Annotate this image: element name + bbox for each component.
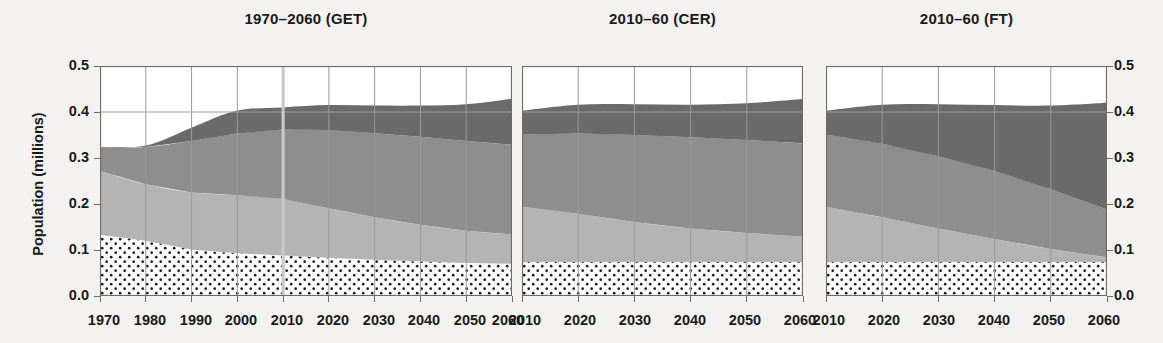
- y-axis-label: Population (millions): [30, 69, 46, 299]
- y-axis-ticks-left: 0.00.10.20.30.40.5: [55, 0, 95, 343]
- y-tick-mark: [94, 66, 100, 67]
- x-tick-label: 1990: [180, 312, 212, 328]
- panel-title-1: 1970–2060 (GET): [100, 10, 512, 27]
- y-tick-label: 0.3: [1114, 149, 1134, 165]
- y-tick-label: 0.4: [69, 103, 89, 119]
- panel-title-3: 2010–60 (FT): [826, 10, 1107, 27]
- x-tick-label: 1970: [88, 312, 120, 328]
- x-tick-label: 2010: [271, 312, 303, 328]
- x-tick-label: 1980: [134, 312, 166, 328]
- x-tick-mark: [100, 296, 101, 302]
- y-tick-label: 0.3: [69, 149, 89, 165]
- x-tick-label: 2040: [978, 312, 1010, 328]
- x-tick-mark: [191, 296, 192, 302]
- x-tick-label: 2060: [1088, 312, 1120, 328]
- y-tick-mark: [1107, 250, 1113, 251]
- y-tick-mark: [94, 112, 100, 113]
- chart-panel-2[interactable]: [522, 66, 803, 296]
- y-tick-label: 0.4: [1114, 103, 1134, 119]
- x-tick-label: 2040: [408, 312, 440, 328]
- x-tick-mark: [938, 296, 939, 302]
- x-tick-mark: [634, 296, 635, 302]
- y-tick-label: 0.5: [69, 57, 89, 73]
- y-tick-label: 0.0: [1114, 287, 1134, 303]
- y-tick-mark: [1107, 112, 1113, 113]
- x-tick-mark: [882, 296, 883, 302]
- x-tick-label: 2030: [923, 312, 955, 328]
- y-tick-mark: [94, 204, 100, 205]
- x-tick-mark: [746, 296, 747, 302]
- x-tick-mark: [803, 296, 804, 302]
- x-tick-mark: [690, 296, 691, 302]
- y-tick-label: 0.5: [1114, 57, 1134, 73]
- x-tick-label: 2020: [317, 312, 349, 328]
- x-tick-mark: [578, 296, 579, 302]
- y-axis-ticks-right: 0.00.10.20.30.40.5: [1108, 0, 1152, 343]
- y-tick-mark: [1107, 296, 1113, 297]
- panel-title-2: 2010–60 (CER): [522, 10, 803, 27]
- area-band-band1_dotted: [826, 262, 1107, 296]
- x-tick-label: 2030: [363, 312, 395, 328]
- figure-root: Population (millions) 0.00.10.20.30.40.5…: [0, 0, 1163, 343]
- y-tick-mark: [94, 296, 100, 297]
- y-tick-label: 0.2: [69, 195, 89, 211]
- x-tick-mark: [466, 296, 467, 302]
- chart-panel-3[interactable]: [826, 66, 1107, 296]
- chart-panel-1[interactable]: [100, 66, 512, 296]
- x-tick-mark: [145, 296, 146, 302]
- x-tick-mark: [994, 296, 995, 302]
- x-tick-label: 2030: [619, 312, 651, 328]
- area-chart-svg: [100, 66, 512, 296]
- x-tick-mark: [328, 296, 329, 302]
- y-tick-label: 0.2: [1114, 195, 1134, 211]
- x-tick-label: 2050: [454, 312, 486, 328]
- x-tick-mark: [826, 296, 827, 302]
- x-tick-label: 2020: [564, 312, 596, 328]
- y-tick-mark: [94, 250, 100, 251]
- x-tick-mark: [283, 296, 284, 302]
- y-tick-label: 0.1: [1114, 241, 1134, 257]
- x-tick-label: 2020: [868, 312, 900, 328]
- area-chart-svg: [522, 66, 803, 296]
- x-tick-mark: [1050, 296, 1051, 302]
- x-tick-label: 2050: [729, 312, 761, 328]
- area-band-band1_dotted: [522, 262, 803, 296]
- x-tick-label: 2040: [674, 312, 706, 328]
- x-tick-label: 2000: [225, 312, 257, 328]
- y-tick-label: 0.1: [69, 241, 89, 257]
- y-tick-mark: [1107, 204, 1113, 205]
- x-tick-mark: [1107, 296, 1108, 302]
- x-tick-mark: [420, 296, 421, 302]
- x-tick-mark: [237, 296, 238, 302]
- y-tick-mark: [1107, 158, 1113, 159]
- x-tick-mark: [512, 296, 513, 302]
- y-tick-mark: [1107, 66, 1113, 67]
- x-tick-mark: [374, 296, 375, 302]
- x-tick-label: 2010: [813, 312, 845, 328]
- x-tick-label: 2050: [1033, 312, 1065, 328]
- x-tick-label: 2060: [784, 312, 816, 328]
- x-tick-mark: [522, 296, 523, 302]
- x-tick-label: 2010: [509, 312, 541, 328]
- area-chart-svg: [826, 66, 1107, 296]
- y-tick-mark: [94, 158, 100, 159]
- y-tick-label: 0.0: [69, 287, 89, 303]
